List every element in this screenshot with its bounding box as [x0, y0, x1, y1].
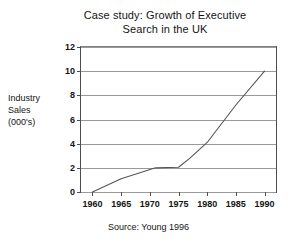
y-axis-title-line-1: Industry: [8, 92, 66, 104]
x-tick-label: 1990: [255, 199, 275, 209]
chart-figure: Case study: Growth of Executive Search i…: [0, 0, 297, 248]
series-line-industry-sales: [92, 71, 264, 192]
x-tick-mark: [207, 192, 208, 196]
chart-title: Case study: Growth of Executive Search i…: [40, 8, 290, 36]
x-tick-mark: [121, 192, 122, 196]
y-tick-label: 10: [65, 66, 75, 76]
chart-title-line-2: Search in the UK: [40, 22, 290, 36]
y-tick-label: 2: [70, 163, 75, 173]
y-axis-title-line-3: (000's): [8, 116, 66, 128]
x-tick-mark: [236, 192, 237, 196]
plot-area: 024681012 1960196519701975198019851990: [80, 46, 277, 193]
y-axis-title: Industry Sales (000's): [8, 92, 66, 128]
y-tick-mark: [77, 192, 81, 193]
source-note: Source: Young 1996: [0, 222, 297, 232]
data-series-layer: [81, 47, 276, 192]
x-tick-label: 1980: [197, 199, 217, 209]
x-tick-label: 1985: [226, 199, 246, 209]
y-tick-label: 12: [65, 42, 75, 52]
x-tick-mark: [265, 192, 266, 196]
x-tick-label: 1975: [168, 199, 188, 209]
y-tick-label: 6: [70, 115, 75, 125]
y-tick-label: 8: [70, 90, 75, 100]
chart-title-line-1: Case study: Growth of Executive: [40, 8, 290, 22]
y-tick-label: 0: [70, 187, 75, 197]
y-tick-label: 4: [70, 139, 75, 149]
y-axis-title-line-2: Sales: [8, 104, 66, 116]
x-tick-mark: [150, 192, 151, 196]
x-tick-label: 1965: [111, 199, 131, 209]
x-tick-mark: [179, 192, 180, 196]
x-tick-label: 1970: [140, 199, 160, 209]
x-tick-mark: [92, 192, 93, 196]
x-tick-label: 1960: [82, 199, 102, 209]
